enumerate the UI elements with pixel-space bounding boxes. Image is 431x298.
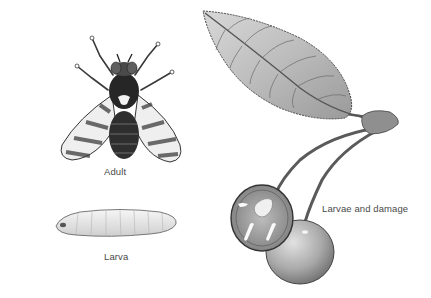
cherries-icon [231,185,334,284]
larva-icon [56,210,176,238]
illustration-canvas [0,0,431,298]
cherry-leaf-icon [203,11,398,134]
adult-label: Adult [104,166,126,177]
adult-fly-icon [61,36,181,162]
larva-label: Larva [104,251,128,262]
larvae-and-damage-label: Larvae and damage [322,203,408,214]
